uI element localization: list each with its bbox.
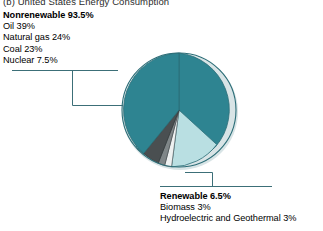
callout-nonrenewable-item-natural-gas: Natural gas 24% [3, 32, 94, 43]
callout-nonrenewable-item-oil: Oil 39% [3, 21, 94, 32]
callout-nonrenewable-item-coal: Coal 23% [3, 44, 94, 55]
callout-renewable-heading: Renewable 6.5% [160, 191, 296, 202]
callout-renewable: Renewable 6.5% Biomass 3% Hydroelectric … [160, 191, 296, 225]
callout-nonrenewable: Nonrenewable 93.5% Oil 39% Natural gas 2… [3, 10, 94, 66]
leader-line-nonrenewable [12, 71, 123, 106]
leader-line-renewable [160, 173, 272, 187]
callout-renewable-item-biomass: Biomass 3% [160, 202, 296, 213]
callout-nonrenewable-item-nuclear: Nuclear 7.5% [3, 55, 94, 66]
callout-renewable-item-hydro-geothermal: Hydroelectric and Geothermal 3% [160, 213, 296, 224]
callout-nonrenewable-heading: Nonrenewable 93.5% [3, 10, 94, 21]
figure-panel: (b) United States Energy Consumption [0, 0, 323, 231]
